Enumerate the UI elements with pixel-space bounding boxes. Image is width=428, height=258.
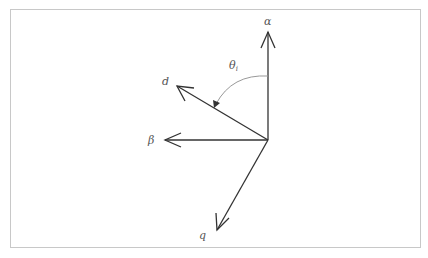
beta-axis: [165, 133, 268, 147]
q-label: q: [199, 229, 206, 242]
beta-label: β: [147, 134, 154, 147]
theta-angle-arc: [213, 76, 268, 108]
theta-subscript: i: [236, 65, 238, 73]
alpha-label: α: [264, 15, 272, 28]
vector-diagram: α β d q θi: [0, 0, 428, 258]
theta-label: θi: [229, 59, 238, 73]
alpha-axis: [261, 32, 275, 140]
q-axis: [216, 140, 268, 230]
d-label: d: [162, 75, 169, 88]
